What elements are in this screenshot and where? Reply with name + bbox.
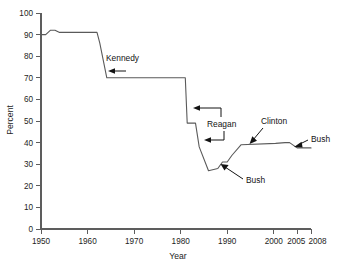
- y-axis-ticks: [36, 13, 41, 229]
- x-tick-label-1950: 1950: [32, 237, 51, 246]
- x-tick-label-1960: 1960: [78, 237, 97, 246]
- annotation-bush-early-label: Bush: [246, 175, 265, 185]
- bush-late-arrow-icon: [294, 142, 303, 148]
- reagan-upper-arrow-icon: [193, 105, 200, 111]
- x-tick-label-2008: 2008: [308, 237, 327, 246]
- y-tick-label-40: 40: [24, 139, 34, 148]
- reagan-lower-arrow-icon: [204, 137, 211, 143]
- annotation-bush-late: Bush: [294, 134, 330, 147]
- x-tick-label-1990: 1990: [218, 237, 237, 246]
- y-tick-label-20: 20: [24, 182, 34, 191]
- annotation-bush-early: Bush: [221, 164, 266, 185]
- annotation-bush-late-label: Bush: [311, 134, 330, 144]
- y-tick-label-100: 100: [19, 9, 33, 18]
- y-tick-label-90: 90: [24, 31, 34, 40]
- kennedy-arrow-icon: [108, 68, 115, 74]
- annotation-clinton-label: Clinton: [261, 116, 287, 126]
- annotation-kennedy: Kennedy: [106, 53, 140, 74]
- annotation-kennedy-label: Kennedy: [106, 53, 140, 63]
- line-chart: 100 90 80 70 60 50 40 30 20 10 0 1950 19…: [0, 0, 350, 267]
- x-tick-label-2000: 2000: [265, 237, 284, 246]
- annotation-reagan-label: Reagan: [207, 119, 237, 129]
- y-tick-label-30: 30: [24, 160, 34, 169]
- y-tick-label-60: 60: [24, 95, 34, 104]
- annotation-reagan: Reagan: [193, 105, 237, 143]
- clinton-arrow-icon: [250, 136, 258, 144]
- y-tick-label-10: 10: [24, 203, 34, 212]
- y-tick-label-50: 50: [24, 117, 34, 126]
- annotation-clinton: Clinton: [250, 116, 288, 144]
- x-axis-ticks: [41, 229, 311, 234]
- x-tick-label-1980: 1980: [172, 237, 191, 246]
- bush-early-arrow-icon: [221, 164, 229, 171]
- y-tick-label-70: 70: [24, 74, 34, 83]
- y-tick-label-80: 80: [24, 52, 34, 61]
- data-series-line: [41, 30, 311, 170]
- x-tick-label-2005: 2005: [287, 237, 306, 246]
- x-axis-title: Year: [169, 251, 187, 261]
- y-tick-label-0: 0: [28, 225, 33, 234]
- x-tick-label-1970: 1970: [125, 237, 144, 246]
- chart-container: 100 90 80 70 60 50 40 30 20 10 0 1950 19…: [0, 0, 350, 267]
- y-axis-title: Percent: [5, 105, 15, 135]
